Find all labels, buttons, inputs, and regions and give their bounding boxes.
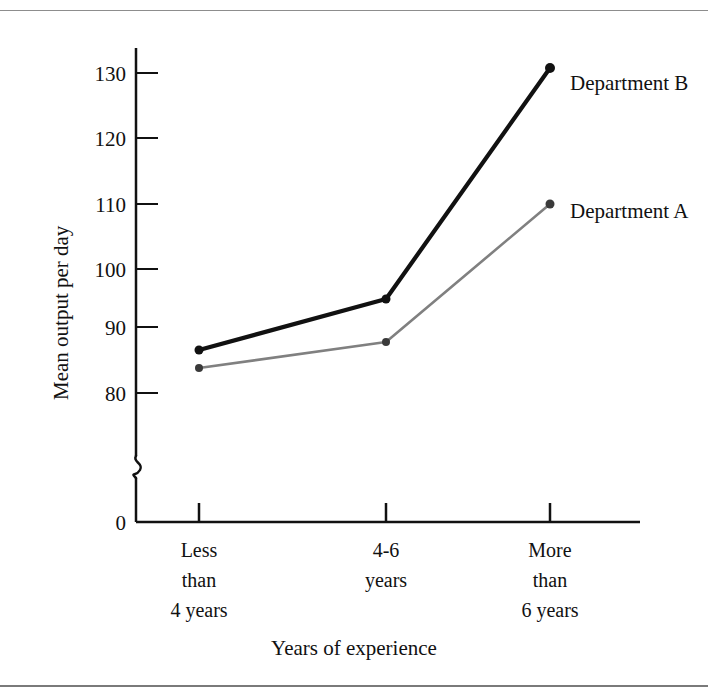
axis-break-icon <box>133 456 140 478</box>
y-tick-label-80: 80 <box>105 382 126 406</box>
y-tick-label-0: 0 <box>116 511 127 535</box>
series-label-department-a: Department A <box>570 199 689 223</box>
figure-canvas: 130 120 110 100 90 80 0 Less than 4 year… <box>0 0 708 699</box>
x-tick-label-0-line-1: than <box>182 569 216 591</box>
x-tick-marks <box>199 503 550 522</box>
y-tick-label-110: 110 <box>95 193 126 217</box>
series-line-department-a <box>199 204 550 368</box>
y-axis-title: Mean output per day <box>49 225 73 400</box>
x-tick-label-2: More than 6 years <box>521 539 578 622</box>
x-tick-label-2-line-2: 6 years <box>521 599 578 622</box>
y-tick-label-120: 120 <box>95 127 127 151</box>
line-chart: 130 120 110 100 90 80 0 Less than 4 year… <box>0 0 708 699</box>
series-markers-department-b <box>195 63 556 355</box>
x-tick-label-0-line-2: 4 years <box>170 599 227 622</box>
x-tick-label-0: Less than 4 years <box>170 539 227 622</box>
x-tick-label-1-line-0: 4-6 <box>373 539 400 561</box>
x-tick-label-1: 4-6 years <box>365 539 407 592</box>
x-tick-label-2-line-1: than <box>533 569 567 591</box>
series-markers-department-a <box>195 200 555 373</box>
x-tick-label-2-line-0: More <box>528 539 571 561</box>
y-tick-marks <box>136 73 158 393</box>
y-tick-label-100: 100 <box>95 258 127 282</box>
series-line-department-b <box>199 68 550 350</box>
x-tick-label-0-line-0: Less <box>181 539 218 561</box>
y-tick-label-130: 130 <box>95 62 127 86</box>
y-tick-label-90: 90 <box>105 316 126 340</box>
series-label-department-b: Department B <box>570 71 688 95</box>
x-axis-title: Years of experience <box>271 636 437 660</box>
x-tick-label-1-line-1: years <box>365 569 407 592</box>
